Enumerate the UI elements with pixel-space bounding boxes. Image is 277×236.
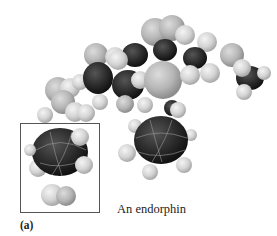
highlight-box <box>20 123 100 213</box>
panel-label: (a) <box>20 219 33 231</box>
endorphin-figure: An endorphin (a) <box>0 0 277 236</box>
right-phenyl-ring <box>118 116 197 180</box>
figure-caption: An endorphin <box>117 202 186 217</box>
